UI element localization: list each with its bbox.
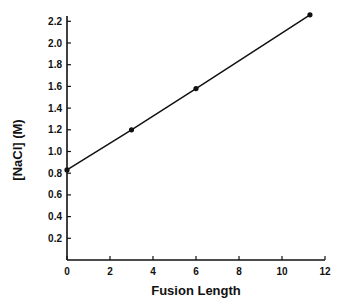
data-series [64,12,312,172]
data-point-marker [307,12,312,17]
x-tick-label: 12 [319,266,331,277]
x-ticks: 024681012 [64,256,331,277]
y-tick-label: 1.2 [48,124,62,135]
x-tick-label: 2 [107,266,113,277]
y-tick-label: 0.4 [48,211,62,222]
data-point-marker [129,127,134,132]
y-tick-label: 0.6 [48,189,62,200]
x-axis-title: Fusion Length [151,283,241,298]
data-point-marker [64,167,69,172]
y-tick-label: 0.2 [48,233,62,244]
series-line [67,15,310,170]
x-tick-label: 10 [276,266,288,277]
x-tick-label: 6 [193,266,199,277]
y-tick-label: 0.8 [48,168,62,179]
y-tick-label: 2.0 [48,38,62,49]
line-chart: 0.20.40.60.81.01.21.41.61.82.02.2 024681… [0,0,345,308]
y-tick-label: 1.4 [48,103,62,114]
y-tick-label: 1.6 [48,81,62,92]
x-tick-label: 4 [150,266,156,277]
data-point-marker [193,86,198,91]
y-tick-label: 2.2 [48,16,62,27]
y-tick-label: 1.0 [48,146,62,157]
x-tick-label: 8 [236,266,242,277]
axes [67,16,325,260]
y-tick-label: 1.8 [48,59,62,70]
y-axis-title: [NaCl] (M) [10,119,25,180]
x-tick-label: 0 [64,266,70,277]
